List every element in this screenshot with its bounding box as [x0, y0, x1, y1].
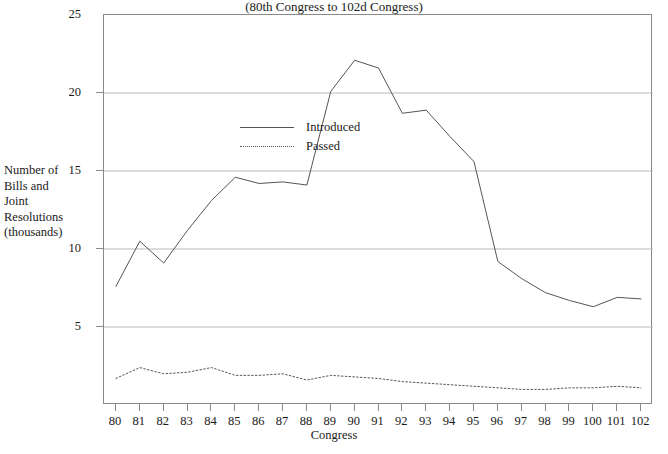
x-tick-mark-81: [139, 404, 140, 411]
x-tick-mark-99: [568, 404, 569, 411]
x-tick-mark-98: [545, 404, 546, 411]
x-tick-mark-80: [115, 404, 116, 411]
x-tick-mark-96: [497, 404, 498, 411]
x-tick-mark-89: [330, 404, 331, 411]
legend-item-passed: Passed: [240, 138, 400, 157]
plot-area: IntroducedPassed: [103, 14, 652, 404]
x-tick-label-86: 86: [252, 415, 265, 428]
x-tick-label-87: 87: [276, 415, 289, 428]
series-line-introduced: [116, 60, 641, 306]
x-tick-mark-90: [354, 404, 355, 411]
y-tick-label-25: 25: [69, 8, 82, 20]
x-tick-mark-102: [640, 404, 641, 411]
legend-label-passed: Passed: [306, 138, 340, 155]
x-tick-mark-83: [187, 404, 188, 411]
x-tick-mark-93: [425, 404, 426, 411]
x-tick-label-100: 100: [583, 415, 602, 428]
y-tick-mark-10: [96, 248, 103, 249]
x-tick-label-92: 92: [395, 415, 408, 428]
legend-item-introduced: Introduced: [240, 119, 400, 138]
legend-swatch-passed: [240, 146, 294, 147]
x-tick-mark-82: [163, 404, 164, 411]
x-tick-label-88: 88: [300, 415, 313, 428]
series-line-passed: [116, 368, 641, 390]
x-tick-mark-94: [449, 404, 450, 411]
x-tick-label-99: 99: [562, 415, 575, 428]
x-tick-mark-87: [282, 404, 283, 411]
x-tick-label-89: 89: [324, 415, 337, 428]
legend-label-introduced: Introduced: [306, 119, 360, 136]
x-tick-label-84: 84: [204, 415, 217, 428]
chart-legend: IntroducedPassed: [240, 119, 400, 157]
x-tick-label-95: 95: [467, 415, 480, 428]
y-tick-mark-20: [96, 92, 103, 93]
y-tick-label-20: 20: [69, 86, 82, 98]
x-axis-title: Congress: [0, 428, 668, 442]
x-tick-mark-97: [521, 404, 522, 411]
x-tick-mark-100: [592, 404, 593, 411]
y-tick-label-5: 5: [75, 320, 81, 332]
x-tick-label-83: 83: [180, 415, 193, 428]
data-series-group: [116, 60, 641, 389]
legend-swatch-introduced: [240, 127, 294, 128]
x-tick-label-101: 101: [607, 415, 626, 428]
x-tick-label-85: 85: [228, 415, 241, 428]
x-tick-mark-95: [473, 404, 474, 411]
x-tick-label-93: 93: [419, 415, 432, 428]
x-tick-label-91: 91: [371, 415, 384, 428]
y-axis-tick-labels: 510152025: [0, 0, 103, 454]
chart-figure: Bills and Joint Resolutions Introduced a…: [0, 0, 668, 454]
x-tick-mark-91: [378, 404, 379, 411]
x-tick-label-96: 96: [491, 415, 504, 428]
x-tick-label-90: 90: [347, 415, 360, 428]
x-tick-label-98: 98: [538, 415, 551, 428]
y-tick-mark-15: [96, 170, 103, 171]
x-tick-mark-85: [234, 404, 235, 411]
x-tick-mark-88: [306, 404, 307, 411]
x-tick-label-82: 82: [156, 415, 169, 428]
x-tick-label-94: 94: [443, 415, 456, 428]
x-tick-label-80: 80: [109, 415, 122, 428]
x-tick-label-81: 81: [133, 415, 146, 428]
x-tick-mark-92: [401, 404, 402, 411]
x-tick-label-97: 97: [514, 415, 527, 428]
x-tick-mark-101: [616, 404, 617, 411]
x-tick-label-102: 102: [631, 415, 650, 428]
plot-svg: [104, 15, 653, 405]
y-tick-mark-5: [96, 326, 103, 327]
y-tick-label-15: 15: [69, 164, 82, 176]
y-tick-label-10: 10: [69, 242, 82, 254]
x-tick-mark-86: [258, 404, 259, 411]
x-tick-mark-84: [210, 404, 211, 411]
